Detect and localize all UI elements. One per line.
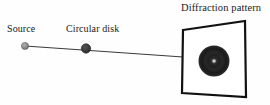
diffraction-figure: Source Circular disk Diffraction pattern xyxy=(0,0,270,105)
diffraction-pattern-disk xyxy=(199,46,230,77)
circular-disk-obstacle xyxy=(81,44,90,53)
diffraction-pattern-label: Diffraction pattern xyxy=(181,3,261,14)
light-ray-line xyxy=(25,46,183,57)
source-label: Source xyxy=(7,24,35,34)
bright-spot-core xyxy=(213,60,215,62)
diffraction-diagram-canvas xyxy=(0,0,270,105)
source-point xyxy=(21,42,28,49)
circular-disk-label: Circular disk xyxy=(66,24,119,34)
